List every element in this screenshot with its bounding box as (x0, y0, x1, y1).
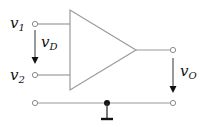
amplifier-triangle (70, 10, 136, 90)
label-vd: vD (41, 33, 58, 52)
label-v2: v2 (10, 66, 25, 85)
ground-rail-terminal-right (170, 100, 175, 105)
vd-arrowhead-icon (32, 57, 39, 64)
amplifier-diagram: v1 v2 vD vO (0, 0, 206, 127)
label-vo: vO (180, 62, 197, 81)
label-v1: v1 (10, 14, 25, 33)
input-terminal-v1 (32, 21, 37, 26)
ground-rail-terminal-left (32, 100, 37, 105)
vo-arrowhead-icon (170, 86, 177, 93)
input-terminal-v2 (32, 72, 37, 77)
output-terminal (170, 47, 175, 52)
